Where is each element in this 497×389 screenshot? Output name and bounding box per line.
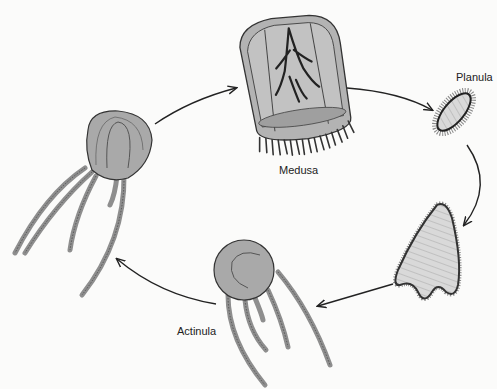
label-planula: Planula bbox=[456, 71, 493, 83]
planula-illustration bbox=[427, 84, 480, 141]
arrow-planula-to-polyp bbox=[464, 145, 480, 225]
label-actinula: Actinula bbox=[177, 325, 216, 337]
arrow-actinula-to-juvenile bbox=[117, 259, 216, 304]
arrow-polyp-to-actinula bbox=[318, 284, 393, 306]
arrow-medusa-to-planula bbox=[347, 88, 432, 110]
label-medusa: Medusa bbox=[279, 164, 318, 176]
medusa-illustration bbox=[237, 10, 356, 162]
actinula-illustration bbox=[214, 240, 330, 385]
polyp-illustration bbox=[395, 204, 459, 299]
juvenile-medusa-illustration bbox=[15, 111, 152, 295]
arrow-juvenile-to-medusa bbox=[155, 88, 236, 124]
life-cycle-diagram bbox=[0, 0, 497, 389]
